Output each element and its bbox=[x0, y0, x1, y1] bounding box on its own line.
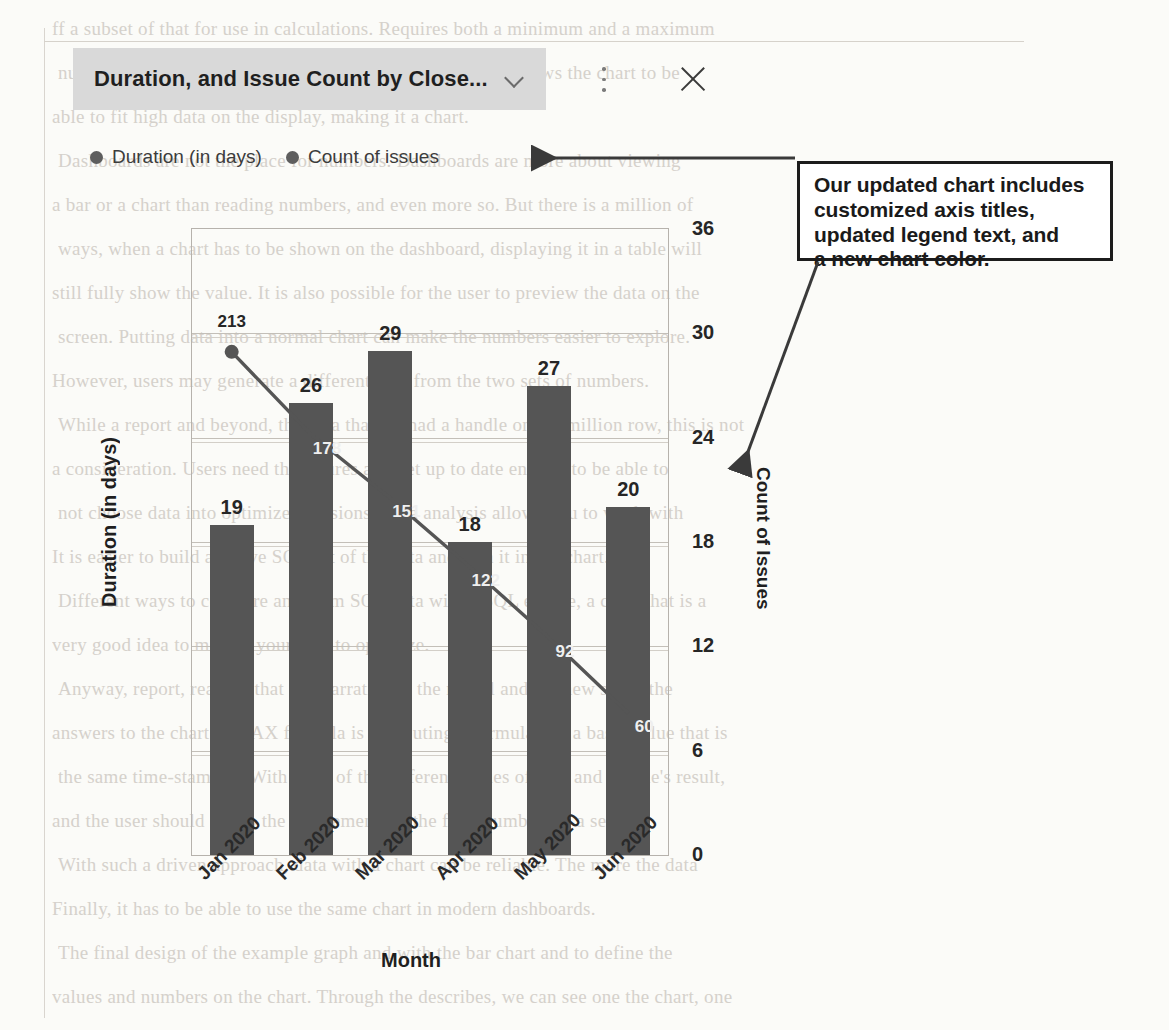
kebab-dot bbox=[602, 88, 606, 92]
kebab-dot bbox=[602, 67, 606, 71]
line-value-label: 92 bbox=[556, 642, 575, 662]
legend-item-label: Count of issues bbox=[308, 146, 439, 168]
right-axis-tick-label: 30 bbox=[692, 321, 714, 344]
page-title: Duration, and Issue Count by Close... bbox=[94, 66, 488, 92]
line-value-label: 151 bbox=[392, 502, 420, 522]
x-axis-title: Month bbox=[96, 949, 726, 972]
combo-chart: Duration (in days) Count of Issues Month… bbox=[96, 207, 836, 947]
right-axis-tick-label: 18 bbox=[692, 530, 714, 553]
right-axis-tick-label: 6 bbox=[692, 738, 703, 761]
line-value-label: 122 bbox=[471, 571, 499, 591]
background-text-line: values and numbers on the chart. Through… bbox=[52, 986, 732, 1008]
line-value-label: 178 bbox=[313, 439, 341, 459]
right-axis-tick-label: 36 bbox=[692, 217, 714, 240]
legend-swatch-icon bbox=[286, 151, 299, 164]
chart-legend: Duration (in days) Count of issues bbox=[90, 146, 439, 168]
chart-title-bar: Duration, and Issue Count by Close... bbox=[73, 48, 546, 110]
kebab-menu-icon[interactable] bbox=[602, 67, 608, 93]
annotation-line: customized axis titles, bbox=[814, 198, 1102, 223]
right-axis-title: Count of Issues bbox=[752, 467, 774, 610]
close-icon[interactable] bbox=[676, 62, 710, 96]
annotation-callout: Our updated chart includes customized ax… bbox=[797, 161, 1113, 261]
legend-item-label: Duration (in days) bbox=[112, 146, 262, 168]
line-path bbox=[192, 229, 668, 855]
legend-item-count[interactable]: Count of issues bbox=[286, 146, 439, 168]
annotation-line: updated legend text, and bbox=[814, 223, 1102, 248]
page-left-rule bbox=[44, 28, 45, 1018]
right-axis-tick-label: 12 bbox=[692, 634, 714, 657]
plot-area: 192629182720 2131781511229260 bbox=[191, 228, 669, 856]
annotation-line: Our updated chart includes bbox=[814, 173, 1102, 198]
annotation-text: Our updated chart includes customized ax… bbox=[814, 173, 1102, 272]
line-value-label: 60 bbox=[635, 717, 654, 737]
left-axis-title: Duration (in days) bbox=[98, 437, 121, 607]
kebab-dot bbox=[602, 78, 606, 82]
chevron-down-icon[interactable] bbox=[504, 68, 526, 90]
line-marker[interactable] bbox=[225, 345, 239, 359]
right-axis-tick-label: 24 bbox=[692, 425, 714, 448]
line-series: 2131781511229260 bbox=[192, 229, 668, 855]
legend-swatch-icon bbox=[90, 151, 103, 164]
legend-item-duration[interactable]: Duration (in days) bbox=[90, 146, 262, 168]
right-axis-tick-label: 0 bbox=[692, 843, 703, 866]
annotation-line: a new chart color. bbox=[814, 247, 1102, 272]
line-value-label: 213 bbox=[217, 312, 245, 332]
background-text-line: ff a subset of that for use in calculati… bbox=[52, 18, 715, 40]
